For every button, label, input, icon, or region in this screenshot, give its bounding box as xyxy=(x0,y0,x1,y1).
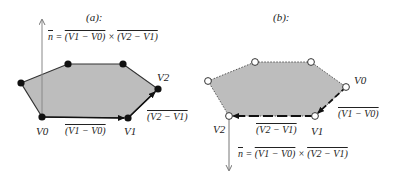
vertex-label-v2: V2 xyxy=(213,124,225,135)
term-v2-minus-v1: (V2 − V1) xyxy=(117,31,158,42)
edge-label-v2-minus-v1: (V2 − V1) xyxy=(256,124,297,136)
vertex-label-v0: V0 xyxy=(354,75,366,86)
edge-v0-v1-arrow xyxy=(42,117,124,118)
vertex-label-v0: V0 xyxy=(36,126,48,137)
vertex-label-v1: V1 xyxy=(311,126,323,137)
polygon-winding-diagram: (a): n = (V1 − V0) × (V2 − V1) V2 V0 V1 … xyxy=(0,0,396,180)
panel-b-title: (b): xyxy=(273,12,290,23)
panel-a-normal-equation: n = (V1 − V0) × (V2 − V1) xyxy=(48,31,158,43)
term-v1-minus-v0: (V1 − V0) xyxy=(255,148,296,159)
edge-label-v1-minus-v0: (V1 − V0) xyxy=(65,125,106,137)
panel-b-normal-equation: n = (V1 − V0) × (V2 − V1) xyxy=(238,148,348,160)
polygon-b xyxy=(208,62,346,116)
edge-label-v2-minus-v1: (V2 − V1) xyxy=(147,111,188,123)
panel-a-title: (a): xyxy=(86,12,103,23)
term-v1-minus-v0: (V1 − V0) xyxy=(65,31,106,42)
edge-label-v1-minus-v0: (V1 − V0) xyxy=(338,108,379,120)
vertex-label-v2: V2 xyxy=(157,72,169,83)
term-v2-minus-v1: (V2 − V1) xyxy=(307,148,348,159)
vertex-label-v1: V1 xyxy=(124,126,136,137)
